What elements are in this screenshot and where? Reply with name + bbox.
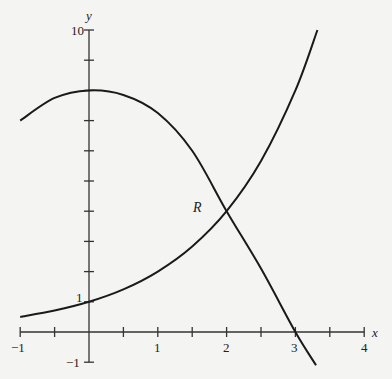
y-axis-label: y [84, 8, 92, 23]
chart-svg: y x −1 1 2 3 4 10 1 −1 R [0, 0, 392, 379]
axes [20, 30, 364, 362]
region-label-R: R [192, 200, 202, 215]
y-tick-label-10: 10 [71, 23, 84, 38]
x-tick-label-4: 4 [361, 340, 368, 355]
y-tick-label-neg1: −1 [66, 355, 80, 370]
curves [20, 30, 317, 365]
x-tick-label-3: 3 [291, 340, 298, 355]
x-tick-label-2: 2 [223, 340, 230, 355]
y-tick-label-1: 1 [76, 290, 83, 305]
x-tick-label-1: 1 [154, 340, 161, 355]
concave-down-curve [20, 90, 316, 365]
x-axis-label: x [371, 325, 378, 340]
x-tick-label-neg1: −1 [11, 340, 25, 355]
chart-figure: y x −1 1 2 3 4 10 1 −1 R [0, 0, 392, 379]
exponential-curve [20, 30, 317, 317]
